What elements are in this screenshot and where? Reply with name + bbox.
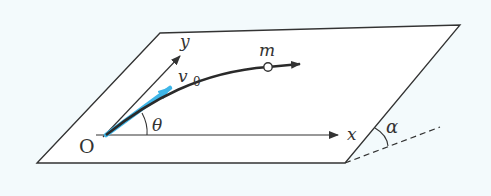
diagram-canvas: O x y v 0 m θ α [0, 0, 491, 196]
x-axis-label: x [347, 124, 357, 144]
velocity-label-subscript: 0 [193, 75, 201, 89]
inclined-plane [37, 25, 460, 163]
particle-m [264, 63, 272, 71]
alpha-label: α [386, 116, 398, 137]
theta-label: θ [152, 115, 162, 135]
velocity-label-main: v [178, 66, 188, 86]
diagram-svg: O x y v 0 m θ α [0, 0, 491, 196]
origin-label: O [79, 135, 95, 157]
y-axis-label: y [179, 31, 190, 51]
mass-label: m [259, 40, 275, 60]
